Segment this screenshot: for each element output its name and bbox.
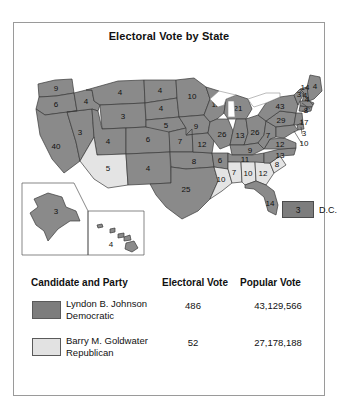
state-label-OH: 26 [251,128,260,137]
state-label-SC: 8 [275,160,280,169]
state-label-AL: 10 [244,169,253,178]
state-label-ME: 4 [313,82,318,91]
table-row: Barry M. Goldwater Republican 52 27,178,… [14,336,326,369]
state-label-AZ: 5 [106,164,111,173]
state-label-WY: 3 [121,112,126,121]
candidate-name-republican: Barry M. Goldwater Republican [66,335,148,359]
state-label-MS: 7 [232,168,237,177]
state-label-ND: 4 [158,86,163,95]
state-label-WV: 7 [266,131,271,140]
electoral-vote-democratic: 486 [162,300,224,311]
candidate-name-democratic: Lyndon B. Johnson Democratic [66,298,147,322]
state-label-NV: 3 [78,128,83,137]
state-label-WA: 9 [54,84,59,93]
state-HI[interactable] [97,224,138,252]
state-label-NJ: 17 [300,118,309,127]
header-candidate: Candidate and Party [31,277,128,288]
popular-vote-republican: 27,178,188 [236,337,320,348]
dc-swatch: 3 [282,201,314,218]
state-label-HI: 4 [109,240,114,249]
state-label-ID: 4 [84,97,89,106]
state-label-MN: 10 [188,92,197,101]
state-label-FL: 14 [266,199,275,208]
lake-michigan [228,101,235,117]
electoral-map: 9 6 40 3 4 4 3 4 5 6 [14,49,326,261]
state-label-RI: 4 [305,95,310,104]
state-label-NC: 13 [276,151,285,160]
figure-panel: Electoral Vote by State 9 6 40 3 4 4 3 [13,22,325,396]
state-label-PA: 29 [277,116,286,125]
state-label-NE: 5 [164,121,169,130]
state-label-OK: 8 [192,157,197,166]
legend-swatch-democratic [32,301,61,319]
state-label-TX: 25 [182,185,191,194]
legend-swatch-republican [32,338,61,356]
header-electoral-vote: Electoral Vote [162,277,228,288]
state-label-KS: 7 [178,137,183,146]
page-title: Electoral Vote by State [14,30,324,42]
state-label-UT: 4 [106,137,111,146]
state-label-DE: 3 [302,129,307,138]
table-header-row: Candidate and Party Electoral Vote Popul… [14,277,326,295]
state-label-IN: 13 [236,131,245,140]
state-label-NM: 4 [146,164,151,173]
state-label-NY: 43 [276,102,285,111]
dc-callout: 3 D.C. [282,201,337,218]
state-label-IA: 9 [194,122,199,131]
state-label-CO: 6 [146,135,151,144]
state-label-CT: 8 [304,106,309,115]
electoral-vote-republican: 52 [162,337,224,348]
state-MT[interactable] [86,80,145,105]
state-label-IL: 26 [218,130,227,139]
state-label-CA: 40 [52,142,61,151]
state-label-KY: 9 [248,146,253,155]
state-label-MA: 14 [301,83,310,92]
state-MD[interactable] [276,125,298,138]
popular-vote-democratic: 43,129,566 [236,300,320,311]
header-popular-vote: Popular Vote [240,277,301,288]
state-FL[interactable] [245,181,278,215]
state-label-VA: 12 [276,140,285,149]
state-label-GA: 12 [259,169,268,178]
dc-label: D.C. [319,205,337,215]
state-label-LA: 10 [217,175,226,184]
state-label-MO: 12 [198,140,207,149]
results-table: Candidate and Party Electoral Vote Popul… [14,277,326,369]
state-label-MD: 10 [300,139,309,148]
state-label-SD: 4 [159,104,164,113]
state-AK[interactable] [30,193,80,241]
table-row: Lyndon B. Johnson Democratic 486 43,129,… [14,299,326,332]
state-label-MT: 4 [118,88,123,97]
state-label-AK: 3 [54,207,59,216]
state-label-AR: 6 [218,156,223,165]
state-label-OR: 6 [54,100,59,109]
